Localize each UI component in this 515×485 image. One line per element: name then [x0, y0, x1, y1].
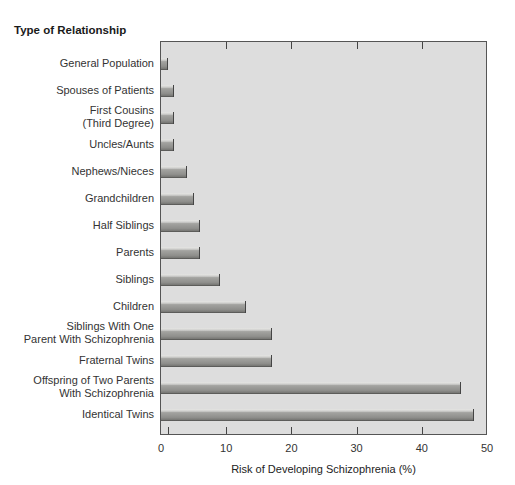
tick-mark: [291, 42, 292, 49]
category-label: Offspring of Two ParentsWith Schizophren…: [33, 374, 154, 400]
bar: [161, 220, 200, 232]
x-tick-label: 40: [407, 442, 437, 454]
x-tick-label: 20: [276, 442, 306, 454]
plot-area: [160, 41, 487, 435]
bar: [161, 247, 200, 259]
category-label: General Population: [60, 57, 154, 70]
bar: [161, 139, 174, 151]
bar: [161, 409, 474, 421]
bar: [161, 166, 187, 178]
x-tick-label: 0: [146, 442, 176, 454]
bar: [161, 328, 272, 340]
category-label: Nephews/Nieces: [71, 165, 154, 178]
bar: [161, 382, 461, 394]
tick-mark: [422, 42, 423, 49]
category-label: Identical Twins: [82, 408, 154, 421]
bar: [161, 355, 272, 367]
x-tick-label: 30: [342, 442, 372, 454]
category-label: Half Siblings: [93, 219, 154, 232]
bar: [161, 193, 194, 205]
tick-mark: [168, 427, 169, 434]
tick-mark: [291, 427, 292, 434]
tick-mark: [422, 427, 423, 434]
chart-title: Type of Relationship: [14, 24, 126, 36]
tick-mark: [226, 42, 227, 49]
category-label: Uncles/Aunts: [89, 138, 154, 151]
bar: [161, 274, 220, 286]
category-label: Parents: [116, 246, 154, 259]
x-axis-label: Risk of Developing Schizophrenia (%): [160, 463, 487, 475]
tick-mark: [357, 42, 358, 49]
bar: [161, 112, 174, 124]
bar: [161, 85, 174, 97]
x-tick-label: 50: [472, 442, 502, 454]
bar: [161, 301, 246, 313]
category-label: First Cousins(Third Degree): [82, 104, 154, 130]
category-label: Spouses of Patients: [56, 84, 154, 97]
tick-mark: [357, 427, 358, 434]
x-tick-label: 10: [211, 442, 241, 454]
category-label: Grandchildren: [85, 192, 154, 205]
category-label: Children: [113, 300, 154, 313]
tick-mark: [226, 427, 227, 434]
category-label: Fraternal Twins: [79, 354, 154, 367]
category-label: Siblings With OneParent With Schizophren…: [24, 320, 154, 346]
bar: [161, 58, 168, 70]
category-label: Siblings: [115, 273, 154, 286]
